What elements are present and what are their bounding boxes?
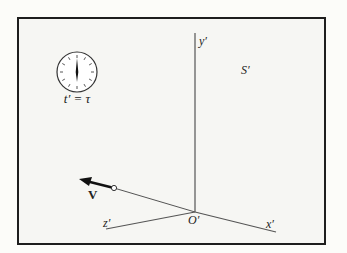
x-axis-label: x′	[265, 217, 274, 231]
x-axis	[195, 212, 276, 232]
clock-time-label: t′ = τ	[64, 91, 92, 106]
diagram-canvas: t′ = τ y′ S′ V z′ O′ x′	[0, 0, 347, 253]
origin-label: O′	[188, 213, 200, 227]
frame-label: S′	[241, 63, 250, 77]
velocity-arrow	[79, 177, 112, 188]
moving-object-marker	[111, 185, 116, 190]
trajectory-line	[114, 188, 195, 212]
z-axis	[106, 212, 195, 229]
velocity-label: V	[88, 187, 98, 202]
z-axis-label: z′	[102, 216, 111, 230]
clock-icon	[57, 52, 97, 92]
y-axis-label: y′	[198, 34, 207, 48]
